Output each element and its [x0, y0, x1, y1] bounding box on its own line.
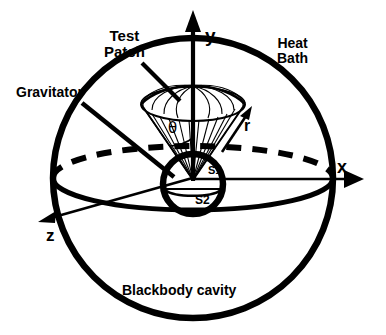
surface-s1-label: S1 [208, 165, 221, 177]
heat-bath-label: Heat Bath [277, 36, 308, 66]
x-axis-label: x [337, 158, 347, 177]
test-patch-label: Test Patch [104, 28, 145, 60]
surface-s2-label: S2 [195, 194, 210, 207]
y-axis-label: y [205, 26, 216, 47]
z-axis-label: z [46, 227, 55, 245]
gravitator-divider [165, 190, 221, 196]
blackbody-cavity-label: Blackbody cavity [122, 283, 236, 298]
z-axis [38, 177, 196, 223]
gravitator-leader [82, 103, 174, 177]
polar-angle-label: θ [168, 120, 177, 136]
figure-canvas: Test Patch Gravitator Heat Bath Blackbod… [0, 0, 386, 335]
radius-vector-label: r [244, 117, 250, 134]
gravitator-label: Gravitator [16, 85, 83, 100]
